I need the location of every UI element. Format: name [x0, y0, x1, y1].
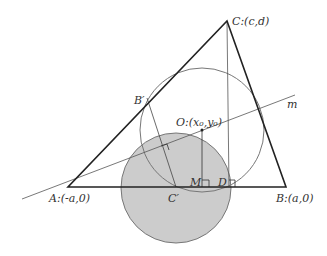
geometry-diagram: C:(c,d) A:(-a,0) B:(a,0) B′ C′ O:(x₀,y₀)…: [0, 0, 327, 256]
label-d: D: [217, 176, 227, 189]
label-c: C:(c,d): [232, 15, 269, 28]
altitude-cd: [227, 21, 229, 187]
label-a: A:(-a,0): [48, 192, 90, 205]
label-line-m: m: [287, 98, 297, 111]
label-m-point: M: [189, 176, 202, 189]
label-b-prime: B′: [133, 94, 145, 107]
label-c-prime: C′: [168, 192, 179, 205]
label-b: B:(a,0): [275, 192, 313, 205]
shaded-circle: [121, 133, 231, 243]
label-o: O:(x₀,y₀): [176, 116, 222, 129]
